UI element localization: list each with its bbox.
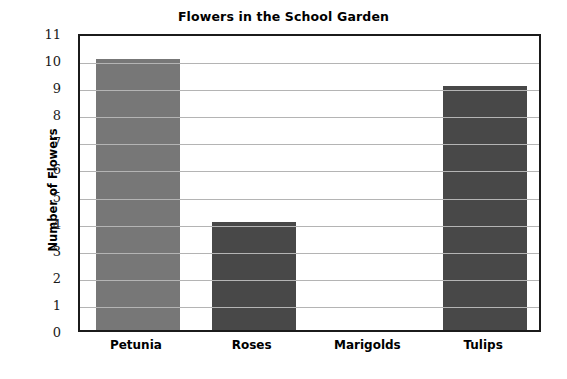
bar-group <box>80 36 539 330</box>
y-axis-tick-label: 6 <box>53 163 61 176</box>
x-axis-tick-label: Marigolds <box>334 338 401 352</box>
bar <box>96 59 180 330</box>
y-axis-tick-label: 8 <box>53 109 61 122</box>
x-axis-tick-label-group: PetuniaRosesMarigoldsTulips <box>78 338 541 362</box>
y-axis-tick-label: 1 <box>53 298 61 311</box>
y-axis-tick-label: 0 <box>53 326 61 339</box>
y-axis-tick-label-group: 11109876543210 <box>0 34 70 332</box>
y-axis-tick-label: 4 <box>53 217 61 230</box>
bar <box>212 222 296 330</box>
bar <box>443 86 527 330</box>
y-axis-tick-label: 7 <box>53 136 61 149</box>
x-axis-tick-label: Petunia <box>110 338 162 352</box>
y-axis-tick-label: 3 <box>53 244 61 257</box>
y-axis-tick-label: 11 <box>44 28 61 41</box>
x-axis-tick-label: Tulips <box>463 338 502 352</box>
y-axis-tick-label: 2 <box>53 271 61 284</box>
bar-chart-figure: Flowers in the School Garden Number of F… <box>0 0 567 379</box>
y-axis-tick-label: 10 <box>44 55 61 68</box>
chart-title: Flowers in the School Garden <box>0 9 567 24</box>
plot-area <box>78 34 541 332</box>
y-axis-tick-label: 9 <box>53 82 61 95</box>
y-axis-tick-label: 5 <box>53 190 61 203</box>
x-axis-tick-label: Roses <box>232 338 272 352</box>
